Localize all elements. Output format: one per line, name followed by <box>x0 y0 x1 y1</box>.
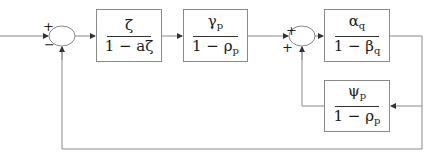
summer-2-plus-bottom: + <box>282 41 293 54</box>
summer-1-plus: + <box>43 20 54 33</box>
block-zeta: ζ 1 − aζ <box>96 9 162 62</box>
block-diagram: + − + + ζ 1 − aζ γp 1 − ρp αq 1 − βq ψp … <box>0 0 440 156</box>
block-gamma: γp 1 − ρp <box>183 9 248 62</box>
summer-1-minus: − <box>44 38 55 51</box>
block-alpha: αq 1 − βq <box>324 9 390 62</box>
summer-2-plus-top: + <box>286 24 297 37</box>
block-psi-feedback: ψp 1 − ρp <box>324 80 390 132</box>
